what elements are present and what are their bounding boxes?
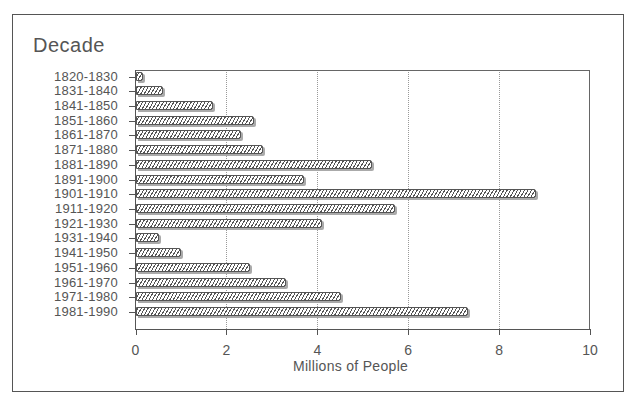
y-tick [129, 180, 135, 181]
y-tick [129, 194, 135, 195]
y-tick [129, 238, 135, 239]
y-tick [129, 121, 135, 122]
x-tick-label: 8 [479, 342, 519, 358]
bar [136, 204, 395, 213]
bar [136, 116, 254, 125]
y-tick [129, 165, 135, 166]
category-label: 1931-1940 [20, 231, 118, 245]
bar [136, 130, 241, 139]
bar [136, 86, 163, 95]
bar [136, 278, 286, 287]
category-label: 1851-1860 [20, 114, 118, 128]
category-label: 1861-1870 [20, 128, 118, 142]
category-label: 1820-1830 [20, 70, 118, 84]
category-label: 1981-1990 [20, 305, 118, 319]
category-label: 1831-1840 [20, 84, 118, 98]
category-label: 1841-1850 [20, 99, 118, 113]
category-label: 1921-1930 [20, 217, 118, 231]
y-tick [129, 312, 135, 313]
x-tick [317, 329, 318, 335]
bar [136, 145, 263, 154]
x-tick-label: 10 [570, 342, 610, 358]
category-label: 1871-1880 [20, 143, 118, 157]
category-label: 1891-1900 [20, 173, 118, 187]
category-label: 1901-1910 [20, 187, 118, 201]
x-tick [408, 329, 409, 335]
bar [136, 101, 213, 110]
x-tick-label: 2 [206, 342, 246, 358]
x-tick [136, 329, 137, 335]
y-tick [129, 253, 135, 254]
category-label: 1911-1920 [20, 202, 118, 216]
y-tick [129, 135, 135, 136]
bar [136, 263, 250, 272]
bar [136, 307, 468, 316]
bar [136, 189, 536, 198]
x-axis-title: Millions of People [293, 358, 408, 374]
category-label: 1951-1960 [20, 261, 118, 275]
x-tick-label: 6 [388, 342, 428, 358]
x-axis-line [135, 329, 590, 330]
x-tick [499, 329, 500, 335]
category-label: 1961-1970 [20, 276, 118, 290]
y-tick [129, 150, 135, 151]
bar [136, 160, 372, 169]
bar [136, 72, 143, 81]
y-tick [129, 209, 135, 210]
x-tick-label: 4 [297, 342, 337, 358]
bar [136, 233, 159, 242]
y-tick [129, 268, 135, 269]
x-tick-label: 0 [116, 342, 156, 358]
y-tick [129, 77, 135, 78]
bar [136, 175, 304, 184]
category-label: 1971-1980 [20, 290, 118, 304]
bar [136, 292, 341, 301]
bar [136, 219, 322, 228]
y-tick [129, 91, 135, 92]
category-label: 1941-1950 [20, 246, 118, 260]
category-label: 1881-1890 [20, 158, 118, 172]
y-tick [129, 297, 135, 298]
y-tick [129, 106, 135, 107]
x-tick [226, 329, 227, 335]
y-tick [129, 283, 135, 284]
x-tick [590, 329, 591, 335]
y-axis-title: Decade [33, 34, 105, 57]
y-tick [129, 224, 135, 225]
bar [136, 248, 181, 257]
